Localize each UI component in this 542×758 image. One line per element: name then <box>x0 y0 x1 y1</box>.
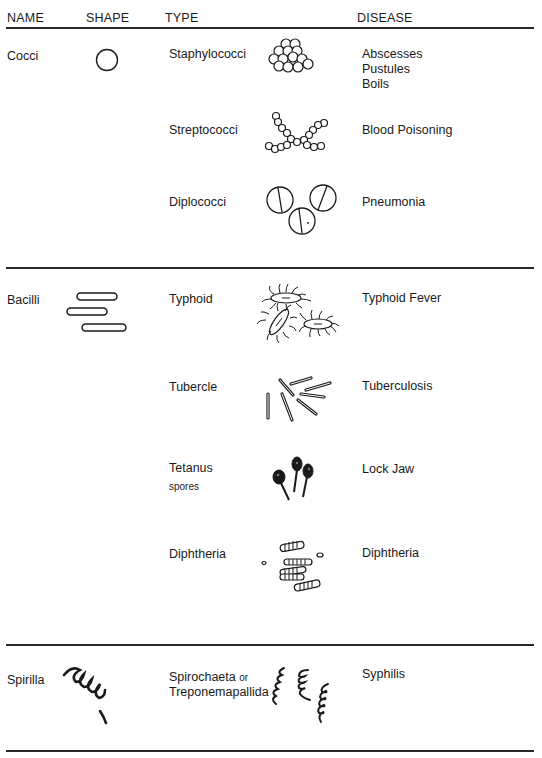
bottom-divider <box>6 750 534 752</box>
type-tetanus-sub: spores <box>169 479 213 494</box>
disease-line: Pustules <box>362 62 422 77</box>
header-type: TYPE <box>165 11 198 25</box>
diplococci-pairs-icon <box>266 185 338 240</box>
spiral-icon <box>62 666 114 726</box>
type-staphylococci: Staphylococci <box>169 47 246 62</box>
header-disease: DISEASE <box>357 11 413 25</box>
group-name-bacilli: Bacilli <box>7 293 40 308</box>
type-tubercle: Tubercle <box>169 380 217 395</box>
typhoid-flagellated-icon <box>256 286 340 348</box>
disease-spirochaeta: Syphilis <box>362 667 405 682</box>
header-shape: SHAPE <box>86 11 129 25</box>
type-streptococci: Streptococci <box>169 123 238 138</box>
type-typhoid: Typhoid <box>169 292 213 307</box>
streptococci-chain-icon <box>264 112 330 154</box>
disease-diphtheria: Diphtheria <box>362 546 419 561</box>
disease-streptococci: Blood Poisoning <box>362 123 452 138</box>
spirochaeta-icon <box>274 666 346 734</box>
tetanus-spores-icon <box>270 455 320 503</box>
disease-typhoid: Typhoid Fever <box>362 291 441 306</box>
circle-icon <box>95 48 119 72</box>
group-divider <box>6 644 534 646</box>
disease-line: Boils <box>362 77 422 92</box>
rods-icon <box>66 292 130 336</box>
type-diphtheria: Diphtheria <box>169 547 226 562</box>
type-or: or <box>239 672 248 683</box>
type-diplococci: Diplococci <box>169 195 226 210</box>
header-divider <box>6 27 534 29</box>
disease-tetanus: Lock Jaw <box>362 462 414 477</box>
type-spirochaeta: Spirochaeta or Treponemapallida <box>169 670 269 700</box>
disease-staphylococci: Abscesses Pustules Boils <box>362 47 422 92</box>
type-tetanus-label: Tetanus <box>169 461 213 476</box>
tubercle-rods-icon <box>264 378 334 428</box>
type-tetanus: Tetanus spores <box>169 461 213 494</box>
group-name-cocci: Cocci <box>7 49 38 64</box>
disease-line: Abscesses <box>362 47 422 62</box>
disease-tubercle: Tuberculosis <box>362 379 432 394</box>
group-divider <box>6 267 534 269</box>
staphylococci-cluster-icon <box>266 38 316 76</box>
type-treponemapallida: Treponemapallida <box>169 685 269 700</box>
diphtheria-segmented-icon <box>260 540 330 592</box>
disease-diplococci: Pneumonia <box>362 195 425 210</box>
header-name: NAME <box>7 11 44 25</box>
type-spirochaeta-label: Spirochaeta <box>169 670 236 684</box>
group-name-spirilla: Spirilla <box>7 673 45 688</box>
